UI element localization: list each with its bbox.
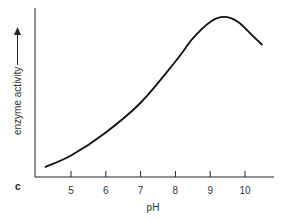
x-tick-label: 9 [207,185,213,196]
x-axis-title: pH [147,202,160,213]
x-ticks: 5678910 [68,171,251,196]
axes [35,8,274,177]
y-axis-title-group: enzyme activity [12,27,23,135]
panel-label: c [15,181,21,192]
y-axis-title: enzyme activity [12,67,23,135]
x-tick-label: 7 [138,185,144,196]
x-tick-label: 5 [68,185,74,196]
x-tick-label: 10 [239,185,251,196]
x-tick-label: 8 [173,185,179,196]
y-axis-arrow-icon [14,27,21,35]
activity-curve [45,17,263,167]
x-tick-label: 6 [103,185,109,196]
chart: 5678910 c pH enzyme activity [0,0,289,222]
